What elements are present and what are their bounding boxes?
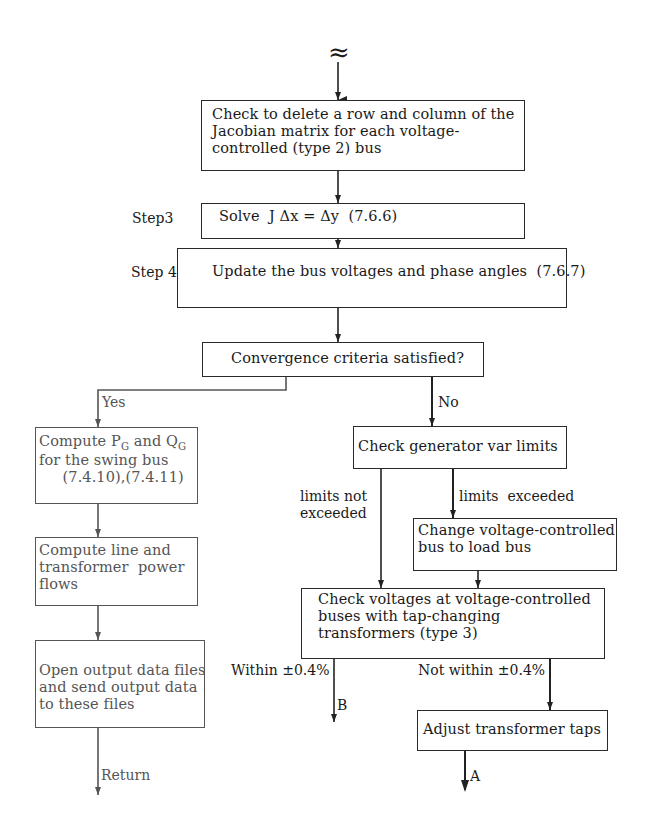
connector-a-label: A [470, 768, 480, 784]
step3-label: Step3 [132, 210, 173, 226]
break-symbol-icon: ≈ [328, 40, 350, 64]
return-label: Return [101, 767, 150, 783]
limits-not-exceeded-label-2: exceeded [300, 505, 367, 521]
change-to-load-bus-box: Change voltage-controlled bus to load bu… [413, 518, 617, 571]
change-bus-line-2: bus to load bus [418, 539, 531, 556]
within-label: Within ±0.4% [231, 662, 330, 678]
line-flows-line-1: Compute line and [39, 542, 171, 559]
convergence-text: Convergence criteria satisfied? [231, 350, 464, 367]
update-box: Update the bus voltages and phase angles… [177, 248, 567, 308]
solve-text: Solve J Δx = Δy (7.6.6) [219, 208, 397, 225]
yes-label: Yes [102, 394, 126, 410]
check-voltages-box: Check voltages at voltage-controlled bus… [301, 588, 605, 659]
connector-b-label: B [337, 697, 347, 713]
change-bus-line-1: Change voltage-controlled [418, 522, 615, 539]
delete-row-line-1: Check to delete a row and column of the [212, 106, 514, 123]
line-flows-line-2: transformer power [39, 559, 184, 576]
generator-var-limits-box: Check generator var limits [353, 426, 567, 469]
output-files-line-1: Open output data files [39, 662, 206, 679]
output-files-line-3: to these files [39, 696, 135, 713]
compute-pg-qg-box: Compute PG and QG for the swing bus (7.4… [35, 427, 198, 504]
adjust-taps-text: Adjust transformer taps [423, 721, 601, 738]
update-text: Update the bus voltages and phase angles… [212, 263, 585, 280]
check-voltages-line-1: Check voltages at voltage-controlled [318, 591, 591, 608]
output-files-line-2: and send output data [39, 679, 197, 696]
adjust-taps-box: Adjust transformer taps [417, 710, 608, 751]
check-voltages-line-2: buses with tap-changing [318, 608, 500, 625]
step4-label: Step 4 [131, 264, 177, 280]
not-within-label: Not within ±0.4% [418, 662, 545, 678]
line-flows-line-3: flows [39, 576, 78, 593]
no-label: No [438, 394, 459, 410]
limits-exceeded-label: limits exceeded [459, 488, 574, 504]
compute-pg-line-3: (7.4.10),(7.4.11) [39, 469, 184, 486]
compute-line-flows-box: Compute line and transformer power flows [35, 537, 198, 606]
compute-pg-line-2: for the swing bus [39, 452, 168, 469]
delete-row-line-3: controlled (type 2) bus [212, 140, 381, 157]
delete-row-column-box: Check to delete a row and column of the … [201, 100, 525, 171]
convergence-box: Convergence criteria satisfied? [202, 342, 484, 377]
limits-not-exceeded-label-1: limits not [300, 488, 367, 504]
check-voltages-line-3: transformers (type 3) [318, 625, 478, 642]
delete-row-line-2: Jacobian matrix for each voltage- [212, 123, 459, 140]
gen-var-text: Check generator var limits [358, 438, 558, 455]
output-files-box: Open output data files and send output d… [35, 640, 205, 728]
solve-box: Solve J Δx = Δy (7.6.6) [201, 203, 525, 239]
